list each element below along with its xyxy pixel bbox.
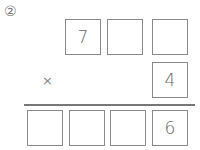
product-digit-4[interactable]: 6 xyxy=(152,110,188,146)
product-digit-2[interactable] xyxy=(69,110,105,146)
multiply-sign: × xyxy=(42,73,53,88)
multiplier-digit[interactable]: 4 xyxy=(152,62,188,98)
multiplicand-digit-3[interactable] xyxy=(152,19,188,55)
product-digit-1[interactable] xyxy=(27,110,63,146)
result-line xyxy=(24,104,195,106)
problem-number: ② xyxy=(4,3,17,19)
multiplicand-digit-2[interactable] xyxy=(107,19,143,55)
product-digit-3[interactable] xyxy=(110,110,146,146)
multiplicand-digit-1[interactable]: 7 xyxy=(65,19,101,55)
